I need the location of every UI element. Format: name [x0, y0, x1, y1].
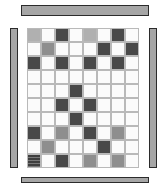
grid-cell-r2-c7 — [111, 42, 125, 56]
left-bar — [10, 28, 18, 168]
grid-cell-r10-c7 — [111, 154, 125, 168]
grid-cell-r3-c1 — [27, 56, 41, 70]
grid-cell-r4-c6 — [97, 70, 111, 84]
grid-cell-r3-c3 — [55, 56, 69, 70]
grid-cell-r9-c2 — [41, 140, 55, 154]
grid-cell-r2-c4 — [69, 42, 83, 56]
grid-cell-r2-c3 — [55, 42, 69, 56]
grid-cell-r5-c8 — [125, 84, 139, 98]
grid-cell-r8-c4 — [69, 126, 83, 140]
grid-cell-r4-c7 — [111, 70, 125, 84]
grid-cell-r8-c2 — [41, 126, 55, 140]
grid-cell-r5-c3 — [55, 84, 69, 98]
grid-cell-r8-c7 — [111, 126, 125, 140]
grid-cell-r9-c6 — [97, 140, 111, 154]
grid-cell-r8-c1 — [27, 126, 41, 140]
grid-cell-r10-c1 — [27, 154, 41, 168]
grid-cell-r6-c5 — [83, 98, 97, 112]
grid-cell-r4-c4 — [69, 70, 83, 84]
grid-cell-r10-c2 — [41, 154, 55, 168]
pattern-grid — [27, 28, 139, 168]
grid-cell-r5-c2 — [41, 84, 55, 98]
grid-cell-r6-c6 — [97, 98, 111, 112]
grid-cell-r2-c8 — [125, 42, 139, 56]
grid-cell-r1-c2 — [41, 28, 55, 42]
grid-cell-r7-c8 — [125, 112, 139, 126]
grid-cell-r5-c7 — [111, 84, 125, 98]
grid-cell-r5-c4 — [69, 84, 83, 98]
grid-cell-r8-c3 — [55, 126, 69, 140]
grid-cell-r6-c1 — [27, 98, 41, 112]
grid-cell-r1-c8 — [125, 28, 139, 42]
grid-cell-r3-c4 — [69, 56, 83, 70]
right-bar — [149, 28, 157, 168]
grid-cell-r4-c1 — [27, 70, 41, 84]
grid-cell-r5-c6 — [97, 84, 111, 98]
grid-cell-r6-c4 — [69, 98, 83, 112]
grid-cell-r6-c8 — [125, 98, 139, 112]
grid-cell-r1-c5 — [83, 28, 97, 42]
grid-cell-r8-c8 — [125, 126, 139, 140]
grid-cell-r9-c5 — [83, 140, 97, 154]
grid-cell-r2-c1 — [27, 42, 41, 56]
grid-cell-r9-c3 — [55, 140, 69, 154]
grid-cell-r1-c4 — [69, 28, 83, 42]
grid-cell-r7-c3 — [55, 112, 69, 126]
grid-cell-r2-c2 — [41, 42, 55, 56]
grid-cell-r8-c5 — [83, 126, 97, 140]
grid-cell-r5-c1 — [27, 84, 41, 98]
grid-cell-r10-c8 — [125, 154, 139, 168]
bottom-bar — [21, 177, 149, 183]
grid-cell-r7-c6 — [97, 112, 111, 126]
grid-cell-r1-c3 — [55, 28, 69, 42]
top-bar — [21, 5, 149, 16]
grid-cell-r1-c1 — [27, 28, 41, 42]
grid-cell-r7-c2 — [41, 112, 55, 126]
grid-cell-r6-c3 — [55, 98, 69, 112]
grid-cell-r10-c6 — [97, 154, 111, 168]
grid-cell-r3-c7 — [111, 56, 125, 70]
grid-cell-r9-c8 — [125, 140, 139, 154]
grid-cell-r3-c8 — [125, 56, 139, 70]
grid-cell-r4-c8 — [125, 70, 139, 84]
grid-cell-r3-c6 — [97, 56, 111, 70]
grid-cell-r10-c5 — [83, 154, 97, 168]
grid-cell-r7-c5 — [83, 112, 97, 126]
grid-cell-r4-c5 — [83, 70, 97, 84]
grid-cell-r3-c5 — [83, 56, 97, 70]
grid-cell-r4-c2 — [41, 70, 55, 84]
grid-cell-r6-c7 — [111, 98, 125, 112]
grid-cell-r9-c7 — [111, 140, 125, 154]
grid-cell-r5-c5 — [83, 84, 97, 98]
grid-cell-r9-c1 — [27, 140, 41, 154]
grid-cell-r1-c7 — [111, 28, 125, 42]
grid-cell-r1-c6 — [97, 28, 111, 42]
grid-cell-r8-c6 — [97, 126, 111, 140]
grid-cell-r6-c2 — [41, 98, 55, 112]
grid-cell-r7-c1 — [27, 112, 41, 126]
grid-cell-r7-c4 — [69, 112, 83, 126]
grid-cell-r2-c6 — [97, 42, 111, 56]
grid-cell-r10-c3 — [55, 154, 69, 168]
grid-cell-r3-c2 — [41, 56, 55, 70]
grid-cell-r7-c7 — [111, 112, 125, 126]
grid-cell-r2-c5 — [83, 42, 97, 56]
grid-cell-r10-c4 — [69, 154, 83, 168]
figure-canvas — [0, 0, 166, 187]
grid-cell-r4-c3 — [55, 70, 69, 84]
grid-cell-r9-c4 — [69, 140, 83, 154]
